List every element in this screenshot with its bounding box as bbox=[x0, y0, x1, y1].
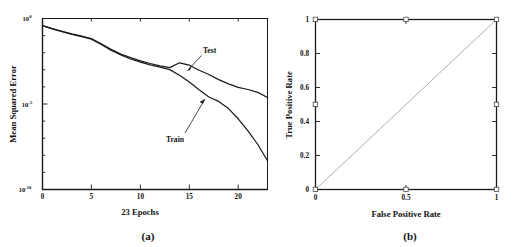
panel-a-x-axis-title: 23 Epochs bbox=[121, 207, 159, 217]
series-curve-test bbox=[43, 26, 268, 98]
roc-marker bbox=[494, 102, 498, 106]
panel-b-y-tick-labels: 0 0.2 0.4 0.6 0.8 1 bbox=[300, 16, 309, 194]
y-tick-label-5: 1 bbox=[305, 16, 309, 24]
x-tick-label-2: 1 bbox=[495, 194, 499, 202]
roc-marker bbox=[313, 102, 317, 106]
roc-marker bbox=[313, 17, 317, 21]
x-tick-label-4: 20 bbox=[235, 193, 243, 201]
annotation-train-leader bbox=[185, 99, 205, 133]
figure-root: 100 10-5 10-10 bbox=[0, 0, 515, 247]
panel-a-axes bbox=[42, 18, 268, 190]
x-tick-label-3: 15 bbox=[186, 193, 194, 201]
panel-b-x-tick-labels: 0 0.5 1 bbox=[314, 194, 499, 202]
y-tick-label-2: 10-10 bbox=[19, 185, 32, 193]
panel-a-mse-plot: 100 10-5 10-10 bbox=[0, 0, 275, 247]
y-tick-label-4: 0.8 bbox=[300, 50, 309, 58]
panel-a-y-ticks bbox=[43, 19, 48, 190]
panel-b-x-axis-title: False Positive Rate bbox=[371, 209, 440, 219]
x-tick-label-1: 5 bbox=[90, 193, 94, 201]
x-tick-label-1: 0.5 bbox=[402, 194, 411, 202]
roc-marker bbox=[494, 17, 498, 21]
y-tick-label-0: 0 bbox=[305, 186, 309, 194]
x-tick-label-0: 0 bbox=[41, 193, 45, 201]
y-tick-label-3: 0.6 bbox=[300, 84, 309, 92]
y-tick-label-0: 100 bbox=[23, 14, 33, 22]
annotation-train-arrowhead bbox=[200, 99, 206, 104]
annotation-test-label: Test bbox=[203, 46, 217, 55]
y-tick-label-1: 0.2 bbox=[300, 152, 309, 160]
panel-b-roc-plot: 0 0.2 0.4 0.6 0.8 1 0 0.5 1 bbox=[275, 0, 515, 247]
panel-a-caption: (a) bbox=[142, 230, 155, 243]
roc-marker bbox=[404, 17, 408, 21]
y-tick-label-1: 10-5 bbox=[22, 100, 33, 108]
x-tick-label-2: 10 bbox=[137, 193, 145, 201]
y-tick-label-2: 0.4 bbox=[300, 118, 309, 126]
panel-a-y-axis-title: Mean Squared Error bbox=[8, 65, 18, 143]
panel-a-x-ticks bbox=[43, 19, 239, 190]
roc-marker bbox=[313, 187, 317, 191]
panel-b-caption: (b) bbox=[403, 230, 417, 243]
roc-marker bbox=[404, 187, 408, 191]
series-curve-train bbox=[43, 26, 268, 161]
panel-a-svg: 100 10-5 10-10 bbox=[0, 0, 275, 247]
panel-a-y-tick-labels: 100 10-5 10-10 bbox=[19, 14, 33, 193]
annotation-train-label: Train bbox=[166, 135, 185, 144]
panel-b-y-axis-title: True Positive Rate bbox=[284, 71, 294, 139]
roc-marker bbox=[494, 187, 498, 191]
x-tick-label-0: 0 bbox=[314, 194, 318, 202]
panel-a-x-tick-labels: 0 5 10 15 20 bbox=[41, 193, 242, 201]
annotation-train: Train bbox=[166, 99, 205, 144]
panel-b-svg: 0 0.2 0.4 0.6 0.8 1 0 0.5 1 bbox=[275, 0, 515, 247]
roc-chance-diagonal bbox=[316, 20, 497, 190]
